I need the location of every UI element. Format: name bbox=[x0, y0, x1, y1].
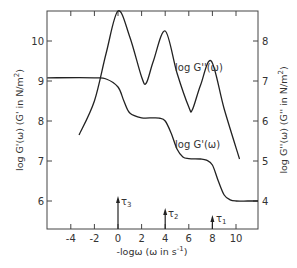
x-tick-label: 2 bbox=[138, 233, 144, 244]
y-right-tick-label: 6 bbox=[262, 116, 268, 127]
y-axis-left-title: log G'(ω) (G' in N/m2) bbox=[13, 69, 25, 171]
arrow-head-icon bbox=[116, 196, 120, 203]
curve-label-g-prime: log G'(ω) bbox=[175, 139, 220, 150]
curve-label-g-double-prime: log G''(ω) bbox=[175, 62, 223, 73]
axis-ticks: -4-2024681067891045678 bbox=[31, 11, 268, 244]
x-tick-label: 10 bbox=[230, 233, 243, 244]
tau3-label: τ3 bbox=[121, 196, 132, 209]
arrow-head-icon bbox=[210, 215, 214, 222]
x-tick-label: 4 bbox=[162, 233, 168, 244]
y-right-tick-label: 8 bbox=[262, 36, 268, 47]
x-tick-label: -2 bbox=[89, 233, 99, 244]
y-right-tick-label: 5 bbox=[262, 156, 268, 167]
curve-g-double-prime bbox=[79, 11, 239, 159]
tau1-label: τ1 bbox=[216, 213, 227, 226]
x-axis-title: -logω (ω in s-1) bbox=[117, 245, 188, 257]
x-tick-label: 6 bbox=[186, 233, 192, 244]
y-left-tick-label: 8 bbox=[38, 116, 44, 127]
y-left-tick-label: 9 bbox=[38, 76, 44, 87]
y-axis-right-title: log G''(ω) (G'' in N/m2) bbox=[277, 66, 289, 173]
curves bbox=[47, 11, 258, 201]
x-tick-label: -4 bbox=[66, 233, 76, 244]
y-left-tick-label: 6 bbox=[38, 196, 44, 207]
x-tick-label: 8 bbox=[209, 233, 215, 244]
y-right-tick-label: 4 bbox=[262, 196, 268, 207]
y-left-tick-label: 10 bbox=[31, 36, 44, 47]
tau2-label: τ2 bbox=[168, 208, 179, 221]
y-left-tick-label: 7 bbox=[38, 156, 44, 167]
plot-frame bbox=[47, 11, 258, 229]
curve-g-prime bbox=[47, 78, 258, 201]
arrow-head-icon bbox=[163, 208, 167, 215]
rheology-chart: -4-2024681067891045678 log G''(ω) log G'… bbox=[0, 0, 297, 268]
x-tick-label: 0 bbox=[115, 233, 121, 244]
y-right-tick-label: 7 bbox=[262, 76, 268, 87]
